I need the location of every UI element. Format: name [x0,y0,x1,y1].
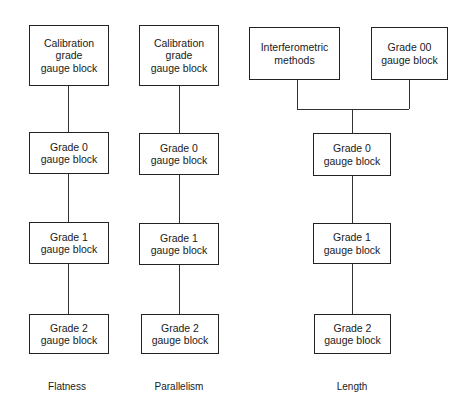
grade-00-box: Grade 00 gauge block [371,27,448,80]
box-label: Calibration grade gauge block [41,37,98,75]
parallelism-grade-0-box: Grade 0 gauge block [139,133,219,175]
connector-line [68,86,69,132]
connector-line [179,265,180,314]
interferometric-methods-box: Interferometric methods [249,27,340,80]
connector-line [297,80,298,109]
box-label: Calibration grade gauge block [151,37,208,75]
box-label: Grade 0 gauge block [41,141,98,166]
connector-line [68,264,69,314]
parallelism-caption: Parallelism [129,381,229,392]
box-label: Grade 0 gauge block [151,142,208,167]
flatness-grade-1-box: Grade 1 gauge block [29,222,109,264]
connector-line [179,175,180,223]
flatness-caption: Flatness [17,381,117,392]
box-label: Grade 2 gauge block [152,322,209,347]
connector-line [352,109,353,133]
box-label: Grade 00 gauge block [381,41,438,66]
connector-line [352,264,353,314]
merge-line [297,109,409,110]
box-label: Grade 0 gauge block [324,142,381,167]
parallelism-grade-1-box: Grade 1 gauge block [139,223,219,265]
length-grade-2-box: Grade 2 gauge block [314,314,391,354]
box-label: Grade 2 gauge block [324,322,381,347]
length-grade-0-box: Grade 0 gauge block [313,133,391,176]
box-label: Grade 1 gauge block [41,231,98,256]
flatness-grade-0-box: Grade 0 gauge block [29,132,109,174]
box-label: Interferometric methods [261,41,329,66]
parallelism-calibration-grade-box: Calibration grade gauge block [139,25,219,86]
length-caption: Length [302,381,402,392]
box-label: Grade 2 gauge block [41,322,98,347]
box-label: Grade 1 gauge block [151,232,208,257]
flatness-calibration-grade-box: Calibration grade gauge block [29,25,109,86]
flatness-grade-2-box: Grade 2 gauge block [29,314,109,354]
length-grade-1-box: Grade 1 gauge block [313,223,391,264]
connector-line [409,80,410,109]
box-label: Grade 1 gauge block [324,231,381,256]
connector-line [68,174,69,222]
parallelism-grade-2-box: Grade 2 gauge block [141,314,219,354]
connector-line [352,176,353,223]
connector-line [179,86,180,133]
